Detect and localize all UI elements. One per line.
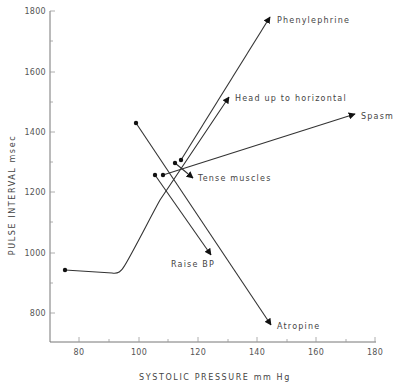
annotation-spasm: Spasm	[361, 112, 394, 121]
x-tick-label: 180	[367, 348, 383, 357]
y-tick-label: 800	[30, 309, 46, 318]
x-axis-title: SYSTOLIC PRESSURE mm Hg	[139, 373, 291, 382]
chart: 1800 1600 1400 1200 1000 800 80 100 120 …	[0, 0, 395, 386]
x-ticks	[79, 337, 375, 342]
series-phenylephrine	[179, 17, 270, 162]
annotation-raise-bp: Raise BP	[171, 260, 215, 269]
x-tick-label: 160	[308, 348, 324, 357]
y-axis-title: PULSE INTERVAL msec	[8, 135, 17, 255]
annotation-phenylephrine: Phenylephrine	[277, 16, 350, 25]
x-tick-label: 120	[190, 348, 206, 357]
series-atropine	[134, 121, 271, 325]
y-tick-label: 1600	[24, 68, 46, 77]
y-tick-label: 1400	[24, 128, 46, 137]
annotation-atropine: Atropine	[277, 322, 320, 331]
series-raise-bp	[153, 173, 211, 255]
y-ticks	[50, 11, 55, 313]
annotation-tense-muscles: Tense muscles	[197, 174, 272, 183]
x-tick-label: 100	[131, 348, 147, 357]
x-tick-label: 80	[74, 348, 85, 357]
y-tick-label: 1000	[24, 249, 46, 258]
y-tick-label: 1200	[24, 188, 46, 197]
x-tick-labels: 80 100 120 140 160 180	[74, 348, 383, 357]
annotation-head-up: Head up to horizontal	[235, 94, 347, 103]
y-tick-labels: 1800 1600 1400 1200 1000 800	[24, 7, 46, 318]
x-tick-label: 140	[249, 348, 265, 357]
y-tick-label: 1800	[24, 7, 46, 16]
